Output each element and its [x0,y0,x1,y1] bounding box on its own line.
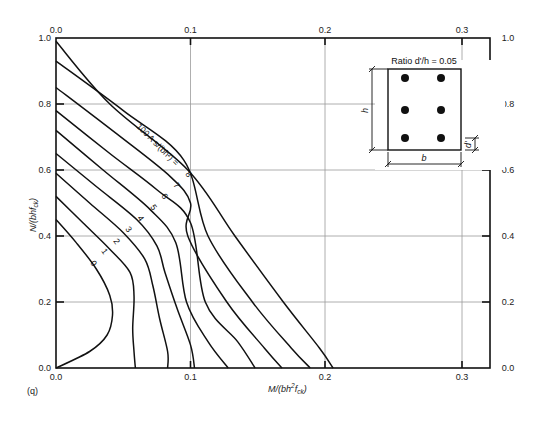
y-tick-label-right: 0.2 [502,297,515,307]
y-tick-label: 0.4 [38,231,51,241]
b-label: b [421,153,426,163]
curve-1 [56,196,135,368]
y-tick-label-right: 0.0 [502,363,515,373]
curve-label-7: 7 [171,180,182,190]
ratio-label: Ratio d'/h = 0.05 [391,56,457,66]
x-tick-label: 0.3 [456,372,469,382]
curve-labels: 0 1 2 3 4 5 6 7 8 100 A s/(bh²) = [88,121,194,268]
x-axis-title: M/(bh2fck) [268,382,307,395]
x-tick-label-top: 0.2 [319,25,332,35]
x-tick-label-top: 0.1 [184,25,197,35]
x-axis-top-labels: 0.0 0.1 0.2 0.3 [50,25,469,35]
x-tick-label: 0.2 [319,372,332,382]
y-tick-label: 0.2 [38,297,51,307]
h-label: h [360,108,370,113]
interaction-chart: 0.0 0.1 0.2 0.3 0.0 0.1 0.2 0.3 0.0 0.2 … [0,0,549,423]
curve-label-3: 3 [123,224,134,234]
curve-6 [56,88,282,369]
section-inset: Ratio d'/h = 0.05 h b [360,56,505,170]
figure-label: (q) [27,386,38,396]
y-tick-label-right: 1.0 [502,33,515,43]
y-tick-label-right: 0.4 [502,231,515,241]
curve-label-4: 4 [135,213,146,223]
y-tick-label: 0.8 [38,99,51,109]
x-tick-label-top: 0.0 [50,25,63,35]
curve-label-2: 2 [111,236,122,246]
y-tick-label: 0.6 [38,165,51,175]
family-label: 100 A s/(bh²) = [135,121,181,167]
curve-2 [56,173,168,368]
curve-label-1: 1 [99,246,110,256]
y-axis-left-labels: 0.0 0.2 0.4 0.6 0.8 1.0 [38,33,51,373]
curve-7 [56,61,310,368]
y-axis-title: N/(bhfck) [28,198,39,232]
curve-label-5: 5 [148,202,159,212]
interaction-curves [56,41,333,368]
x-tick-label: 0.1 [184,372,197,382]
y-tick-label: 0.0 [38,363,51,373]
x-axis-bottom-labels: 0.0 0.1 0.2 0.3 [50,372,469,382]
x-tick-label-top: 0.3 [456,25,469,35]
d-label: d' [463,141,473,148]
curve-0 [56,220,113,369]
x-tick-label: 0.0 [50,372,63,382]
y-tick-label: 1.0 [38,33,51,43]
